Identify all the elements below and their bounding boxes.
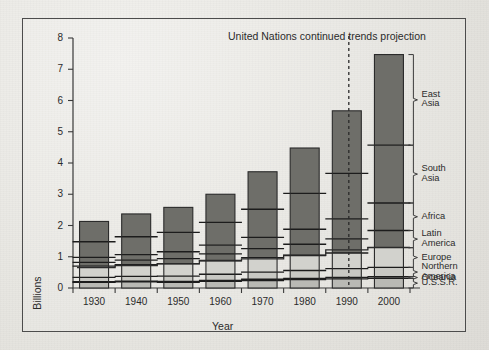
legend-label: Africa <box>421 212 445 222</box>
x-tick-label-1960: 1960 <box>198 296 242 307</box>
y-tick-label: 6 <box>45 95 63 106</box>
bar-1960 <box>199 194 242 288</box>
x-tick-label-2000: 2000 <box>367 296 411 307</box>
bar-1980 <box>283 148 326 288</box>
y-tick-label: 5 <box>45 126 63 137</box>
x-tick-label-1930: 1930 <box>72 296 116 307</box>
y-tick-label: 8 <box>45 32 63 43</box>
legend-bracket <box>408 231 417 248</box>
legend-label: LatinAmerica <box>421 229 455 248</box>
bar-2000 <box>367 55 410 288</box>
legend-label: SouthAsia <box>421 164 445 183</box>
legend-label-line1: U.S.S.R. <box>421 278 457 288</box>
y-tick-label: 7 <box>45 63 63 74</box>
y-tick-label: 4 <box>45 157 63 168</box>
bar-1930 <box>73 221 116 288</box>
y-axis-label: Billions <box>31 253 43 333</box>
legend-label: U.S.S.R. <box>421 278 457 288</box>
legend-bracket <box>408 145 417 203</box>
legend-bracket <box>408 203 417 231</box>
bar-1940 <box>115 214 158 288</box>
x-axis-label: Year <box>212 320 233 332</box>
bar-1950 <box>157 207 200 288</box>
x-tick-label-1980: 1980 <box>283 296 327 307</box>
legend-label: EastAsia <box>421 90 440 109</box>
chart-title: United Nations continued trends projecti… <box>228 30 426 42</box>
legend-bracket <box>408 248 417 268</box>
legend-label-line2: Asia <box>421 99 440 109</box>
x-tick-label-1970: 1970 <box>241 296 285 307</box>
legend-label-line2: Asia <box>421 174 445 184</box>
bar-1990 <box>325 111 368 288</box>
y-tick-label: 3 <box>45 188 63 199</box>
x-tick-label-1950: 1950 <box>156 296 200 307</box>
legend-bracket <box>408 278 417 288</box>
x-tick-label-1940: 1940 <box>114 296 158 307</box>
y-tick-label: 2 <box>45 220 63 231</box>
bar-1970 <box>241 172 284 288</box>
y-tick-label: 0 <box>45 282 63 293</box>
legend-bracket <box>408 55 417 146</box>
y-tick-label: 1 <box>45 251 63 262</box>
legend-label-line2: America <box>421 239 455 249</box>
x-tick-label-1990: 1990 <box>325 296 369 307</box>
legend-label-line1: Africa <box>421 212 445 222</box>
